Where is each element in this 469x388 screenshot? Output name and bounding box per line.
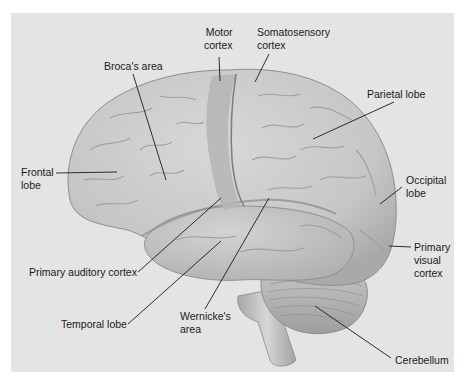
label-cerebellum: Cerebellum [395,354,449,367]
cerebrum-shape [68,69,396,285]
label-wernickes-area: Wernicke's area [180,310,231,336]
label-occipital-lobe: Occipital lobe [406,174,446,200]
label-primary-visual-cortex: Primary visual cortex [414,241,450,280]
label-parietal-lobe: Parietal lobe [367,88,425,101]
label-somatosensory-cortex: Somatosensory cortex [257,26,330,52]
label-frontal-lobe: Frontal lobe [21,166,54,192]
label-brocas-area: Broca's area [104,60,163,73]
label-temporal-lobe: Temporal lobe [61,318,127,331]
leader-primary-visual-cortex [389,246,411,247]
label-motor-cortex: Motor cortex [204,26,233,52]
label-primary-auditory-cortex: Primary auditory cortex [29,266,137,279]
